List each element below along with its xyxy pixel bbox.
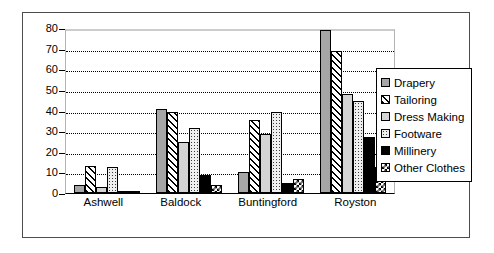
bar <box>271 112 282 193</box>
legend-label: Dress Making <box>394 111 464 123</box>
legend-item: Dress Making <box>381 108 465 125</box>
legend-label: Other Clothes <box>394 162 465 174</box>
bar <box>118 191 129 193</box>
bar <box>364 137 375 193</box>
legend-label: Footware <box>394 128 442 140</box>
legend-label: Millinery <box>394 145 436 157</box>
y-tick-label: 0 <box>52 187 58 200</box>
legend-item: Other Clothes <box>381 159 465 176</box>
legend-swatch-icon <box>381 112 390 121</box>
y-tick-label: 10 <box>46 166 58 179</box>
bar <box>260 134 271 193</box>
bar <box>211 185 222 193</box>
bar <box>200 175 211 193</box>
x-axis-labels: AshwellBaldockBuntingfordRoyston <box>65 196 395 208</box>
bar-group <box>238 30 304 193</box>
bar <box>320 30 331 193</box>
y-tick-label: 30 <box>46 125 58 138</box>
bar <box>74 185 85 193</box>
chart-legend: DraperyTailoringDress MakingFootwareMill… <box>376 68 472 182</box>
legend-item: Tailoring <box>381 91 465 108</box>
bar <box>156 109 167 193</box>
y-axis: 01020304050607080 <box>23 29 65 195</box>
bar <box>331 51 342 193</box>
bar <box>342 94 353 193</box>
legend-label: Drapery <box>394 77 435 89</box>
bar <box>96 187 107 193</box>
bar <box>249 120 260 193</box>
bar <box>167 112 178 193</box>
legend-swatch-icon <box>381 146 390 155</box>
y-tick-label: 50 <box>46 84 58 97</box>
legend-item: Drapery <box>381 74 465 91</box>
y-tick-label: 40 <box>46 105 58 118</box>
legend-item: Footware <box>381 125 465 142</box>
legend-swatch-icon <box>381 95 390 104</box>
bar-groups <box>66 30 394 193</box>
y-tick-label: 20 <box>46 146 58 159</box>
legend-swatch-icon <box>381 163 390 172</box>
plot-area <box>65 29 395 194</box>
legend-swatch-icon <box>381 129 390 138</box>
bar <box>107 167 118 193</box>
bar <box>238 172 249 193</box>
bar <box>85 166 96 193</box>
chart-figure-frame: 01020304050607080 AshwellBaldockBuntingf… <box>22 12 470 238</box>
bar <box>353 101 364 193</box>
legend-swatch-icon <box>381 78 390 87</box>
y-tick-label: 60 <box>46 63 58 76</box>
legend-item: Millinery <box>381 142 465 159</box>
bar-group <box>74 30 140 193</box>
x-axis-label: Buntingford <box>238 196 297 208</box>
bar <box>293 179 304 193</box>
bar-group <box>156 30 222 193</box>
bar <box>189 128 200 193</box>
legend-label: Tailoring <box>394 94 437 106</box>
x-axis-label: Ashwell <box>84 196 124 208</box>
bar <box>129 191 140 193</box>
y-tick-mark <box>59 194 65 195</box>
bar <box>178 142 189 193</box>
x-axis-label: Royston <box>334 196 376 208</box>
bar <box>282 183 293 193</box>
y-tick-label: 70 <box>46 43 58 56</box>
x-axis-label: Baldock <box>160 196 201 208</box>
y-tick-label: 80 <box>46 22 58 35</box>
